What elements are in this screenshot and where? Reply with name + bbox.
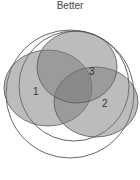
label-1: 1 xyxy=(33,86,39,97)
set-3 xyxy=(37,31,117,103)
label-3: 3 xyxy=(89,66,95,77)
venn-diagram: 1 2 3 xyxy=(0,0,140,180)
label-2: 2 xyxy=(102,98,108,109)
